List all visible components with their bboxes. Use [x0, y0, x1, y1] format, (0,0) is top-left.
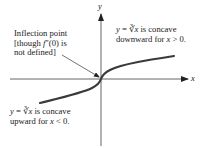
inflection-line-3: not defined]	[14, 48, 67, 58]
y-axis-label: y	[98, 1, 102, 11]
concave-up-annotation: y = ∛x is concave upward for x < 0.	[10, 107, 70, 126]
concave-up-line-2: upward for x < 0.	[10, 117, 70, 127]
cube-root-curve	[40, 56, 174, 103]
inflection-annotation: Inflection point [though f″(0) is not de…	[14, 29, 67, 58]
concave-down-annotation: y = ∛x is concave downward for x > 0.	[116, 25, 186, 44]
concave-down-line-2: downward for x > 0.	[116, 35, 186, 45]
x-axis-label: x	[191, 73, 195, 83]
inflection-pointer-arrow	[62, 55, 99, 77]
